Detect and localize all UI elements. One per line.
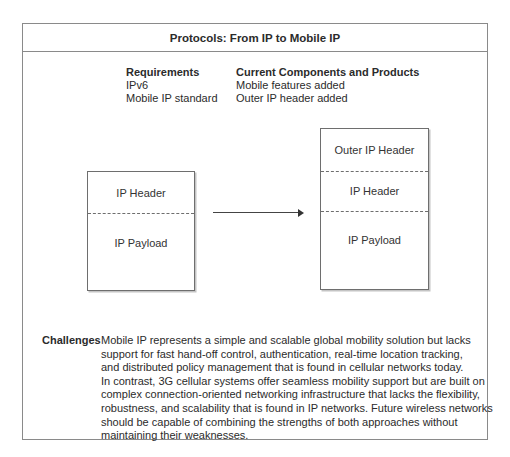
requirement-item: Mobile IP standard	[126, 92, 218, 105]
current-components-column: Current Components and Products Mobile f…	[236, 66, 419, 105]
requirements-heading: Requirements	[126, 66, 218, 79]
current-components-heading: Current Components and Products	[236, 66, 419, 79]
challenges-line: should be capable of combining the stren…	[101, 416, 486, 430]
outer-ip-header-segment: Outer IP Header	[321, 129, 428, 171]
requirement-item: IPv6	[126, 79, 218, 92]
challenges-line: robustness, and scalability that is foun…	[101, 402, 486, 416]
ip-payload-segment: IP Payload	[88, 213, 194, 272]
requirements-column: Requirements IPv6 Mobile IP standard	[126, 66, 218, 105]
ip-packet: IP Header IP Payload	[87, 171, 195, 291]
current-component-item: Outer IP header added	[236, 92, 419, 105]
diagram-title: Protocols: From IP to Mobile IP	[23, 24, 487, 52]
current-component-item: Mobile features added	[236, 79, 419, 92]
ip-header-segment: IP Header	[88, 172, 194, 213]
arrow-head-icon	[298, 209, 304, 217]
challenges-line: Mobile IP represents a simple and scalab…	[101, 334, 486, 348]
challenges-line: In contrast, 3G cellular systems offer s…	[101, 375, 486, 389]
challenges-line: support for fast hand-off control, authe…	[101, 348, 486, 362]
challenges-text: Mobile IP represents a simple and scalab…	[101, 334, 486, 443]
ip-payload-segment: IP Payload	[321, 211, 428, 269]
challenges-label: Challenges	[42, 334, 101, 348]
ip-header-segment: IP Header	[321, 171, 428, 211]
mobile-ip-packet: Outer IP Header IP Header IP Payload	[320, 128, 429, 290]
challenges-line: and distributed policy management that i…	[101, 361, 486, 375]
challenges-line: maintaining their weaknesses.	[101, 429, 486, 443]
transition-arrow-line	[213, 212, 299, 213]
challenges-line: complex connection-oriented networking i…	[101, 388, 486, 402]
